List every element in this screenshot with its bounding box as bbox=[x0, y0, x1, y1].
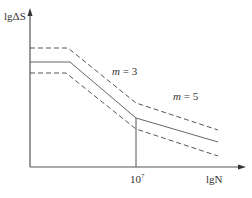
y-axis-label: lgΔS bbox=[4, 11, 26, 22]
x-tick-label: 107 bbox=[130, 173, 145, 185]
sn-curve-diagram: lgΔS 107 lgN m = 3 m = 5 bbox=[0, 0, 252, 198]
x-tick-base: 10 bbox=[130, 173, 141, 185]
plot-area bbox=[0, 0, 252, 198]
lower-bound-curve bbox=[30, 73, 218, 156]
y-axis-arrow-icon bbox=[28, 8, 33, 16]
slope-symbol: m bbox=[112, 65, 120, 77]
slope-label-m5: m = 5 bbox=[173, 91, 198, 102]
x-axis-label: lgN bbox=[206, 174, 223, 185]
slope-value: = 5 bbox=[181, 90, 198, 102]
slope-label-m3: m = 3 bbox=[112, 66, 137, 77]
slope-value: = 3 bbox=[120, 65, 137, 77]
x-axis-arrow-icon bbox=[238, 165, 246, 170]
x-tick-exponent: 7 bbox=[141, 172, 145, 180]
slope-symbol: m bbox=[173, 90, 181, 102]
upper-bound-curve bbox=[30, 48, 218, 130]
